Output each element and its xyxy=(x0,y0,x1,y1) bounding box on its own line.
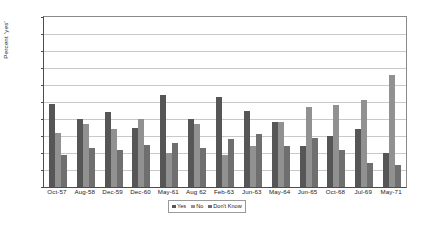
legend-swatch xyxy=(191,205,195,209)
x-tick-label: Jul-69 xyxy=(354,188,371,195)
bar-group xyxy=(239,17,267,187)
legend-swatch xyxy=(172,205,176,209)
bar xyxy=(172,143,178,187)
bar xyxy=(284,146,290,187)
bar-group xyxy=(183,17,211,187)
bar-group xyxy=(155,17,183,187)
legend-item: Yes xyxy=(172,203,186,210)
chart-legend: YesNoDon't Know xyxy=(168,200,246,213)
legend-swatch xyxy=(208,205,212,209)
x-tick-label: Oct-57 xyxy=(47,188,66,195)
x-tick-label: Jun-63 xyxy=(242,188,262,195)
bar xyxy=(256,134,262,187)
bar-group xyxy=(44,17,72,187)
y-axis-title: Percent 'yes' xyxy=(2,0,14,80)
bar xyxy=(61,155,67,187)
x-tick-label: May-71 xyxy=(380,188,401,195)
bar xyxy=(117,150,123,187)
plot-area: 0102030405060708090100 xyxy=(43,16,407,188)
bar-group xyxy=(211,17,239,187)
x-tick-label: May-61 xyxy=(158,188,179,195)
bar xyxy=(89,148,95,187)
bar xyxy=(144,145,150,188)
bar xyxy=(200,148,206,187)
bar xyxy=(367,163,373,187)
x-tick-label: May-64 xyxy=(269,188,290,195)
x-tick-label: Feb-63 xyxy=(214,188,234,195)
x-tick-label: Dec-59 xyxy=(102,188,123,195)
x-tick-label: Dec-60 xyxy=(130,188,151,195)
legend-item: No xyxy=(191,203,203,210)
bar xyxy=(339,150,345,187)
legend-label: Yes xyxy=(177,203,186,210)
bar-group xyxy=(350,17,378,187)
x-tick-label: Oct-68 xyxy=(326,188,345,195)
x-tick-label: Aug 62 xyxy=(186,188,206,195)
bar xyxy=(395,165,401,187)
bar-group xyxy=(128,17,156,187)
legend-label: Don't Know xyxy=(213,203,241,210)
bar xyxy=(228,139,234,187)
x-tick-label: Aug-58 xyxy=(74,188,95,195)
bar-chart: Percent 'yes' 0102030405060708090100 Oct… xyxy=(0,0,421,227)
bar-group xyxy=(378,17,406,187)
x-tick-label: Jun-65 xyxy=(298,188,318,195)
bar-group xyxy=(295,17,323,187)
bar-group xyxy=(100,17,128,187)
x-axis-labels: Oct-57Aug-58Dec-59Dec-60May-61Aug 62Feb-… xyxy=(43,188,405,200)
bar-group xyxy=(322,17,350,187)
bar-group xyxy=(72,17,100,187)
bar-series-container xyxy=(44,17,406,187)
bar-group xyxy=(267,17,295,187)
legend-item: Don't Know xyxy=(208,203,241,210)
bar xyxy=(312,138,318,187)
legend-label: No xyxy=(196,203,203,210)
